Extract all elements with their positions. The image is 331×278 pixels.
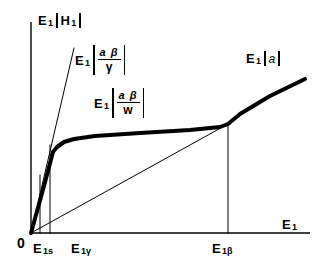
y-axis-arg-subscript: 1 [71,19,76,28]
tick-e1beta-symbol: E [212,242,221,255]
x-axis-label-subscript: 1 [292,223,297,232]
slope-w-numerator: a β [117,90,140,102]
slope-w-symbol: E [94,97,103,110]
slope-w-subscript: 1 [104,102,109,111]
asymptote-final-line [31,124,228,233]
tick-e1s-subscript: 1s [43,247,53,256]
origin-label: 0 [17,236,25,250]
abs-bar-left-icon [264,51,266,66]
y-axis-label-subscript: 1 [48,19,53,28]
tick-e1beta-subscript: 1β [222,247,233,256]
abs-bar-right-icon [79,13,81,28]
abs-bar-right-icon [124,45,126,75]
y-axis-label: E1 H1 [38,12,83,28]
slope-a-label: E1 a [246,50,282,66]
abs-bar-right-icon [143,88,145,118]
slope-gamma-numerator: a β [98,47,121,59]
slope-gamma-fraction: a β γ [98,47,121,74]
tick-label-e1beta: E1β [212,240,233,256]
slope-w-label: E1 a β w [94,88,146,118]
abs-bar-left-icon [93,45,95,75]
slope-a-symbol: E [246,52,255,65]
tick-e1gamma-symbol: E [71,242,80,255]
slope-gamma-label: E1 a β γ [75,45,127,75]
plot-canvas [0,0,331,278]
y-axis-label-symbol: E [38,14,47,27]
slope-gamma-denominator: γ [104,60,115,73]
slope-w-fraction: a β w [117,90,140,117]
tick-label-e1gamma: E1γ [71,240,91,256]
slope-gamma-subscript: 1 [85,59,90,68]
tick-e1s-symbol: E [33,242,42,255]
tick-e1gamma-subscript: 1γ [81,247,91,256]
y-axis-arg-symbol: H [61,14,71,27]
slope-w-denominator: w [121,103,135,116]
slope-a-argument: a [269,53,276,65]
figure-container: E1 H1 E1 a β γ E1 a β w [0,0,331,278]
slope-a-subscript: 1 [256,57,261,66]
slope-gamma-symbol: E [75,54,84,67]
abs-bar-right-icon [278,51,280,66]
abs-bar-left-icon [56,13,58,28]
tick-label-e1s: E1s [33,240,53,256]
x-axis-label-symbol: E [282,218,291,231]
x-axis-label: E1 [282,216,297,232]
abs-bar-left-icon [112,88,114,118]
